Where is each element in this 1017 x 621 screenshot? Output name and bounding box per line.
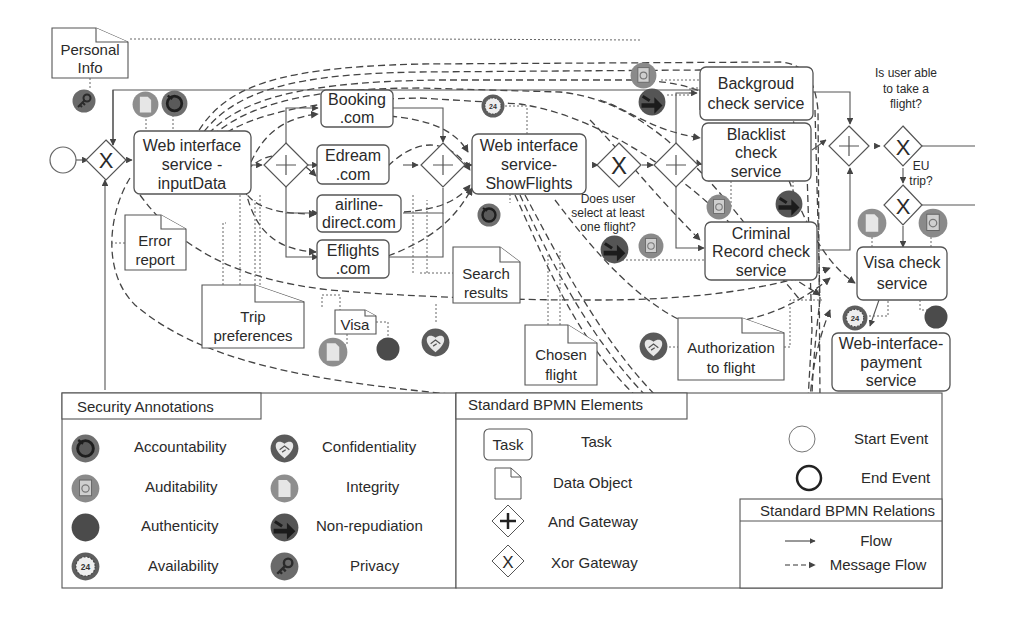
non-repudiation-icon (639, 89, 666, 116)
task-criminal-record-check[interactable]: Criminal Record check service (705, 222, 817, 280)
task-airline-direct[interactable]: airline- direct.com (317, 195, 401, 232)
task-web-interface-showflights[interactable]: Web interface service- ShowFlights (472, 134, 586, 194)
data-object-personal-info[interactable]: Personal Info (52, 28, 128, 78)
data-object-visa[interactable]: Visa (335, 310, 376, 334)
svg-text:.com: .com (340, 109, 375, 126)
svg-text:preferences: preferences (213, 327, 292, 344)
svg-text:Task: Task (493, 436, 524, 453)
svg-text:Message Flow: Message Flow (830, 556, 927, 573)
task-web-interface-inputdata[interactable]: Web interface service - inputData (134, 131, 251, 194)
svg-text:Accountability: Accountability (134, 438, 227, 455)
availability-icon (482, 95, 505, 118)
confidentiality-icon (640, 333, 668, 361)
svg-text:service: service (731, 163, 782, 180)
non-repudiation-icon (776, 191, 803, 218)
svg-text:Visa: Visa (341, 316, 371, 333)
svg-text:service: service (736, 262, 787, 279)
and-gateway-split-checks[interactable] (654, 143, 698, 187)
svg-text:X: X (896, 194, 911, 219)
accountability-icon (478, 204, 501, 227)
svg-text:X: X (611, 152, 627, 179)
svg-text:Web interface: Web interface (480, 137, 579, 154)
svg-text:.com: .com (336, 166, 371, 183)
svg-text:And Gateway: And Gateway (548, 513, 639, 530)
svg-text:Eflights: Eflights (327, 242, 379, 259)
svg-text:Web interface: Web interface (143, 137, 242, 154)
svg-text:ShowFlights: ShowFlights (485, 175, 572, 192)
svg-text:Availability: Availability (148, 557, 219, 574)
integrity-icon (133, 92, 159, 118)
data-object-authorization-to-flight[interactable]: Authorization to flight (678, 318, 784, 380)
confidentiality-icon (271, 435, 299, 463)
task-background-check[interactable]: Backgroud check service (700, 67, 813, 120)
svg-text:direct.com: direct.com (322, 214, 396, 231)
and-gateway-split-providers[interactable] (264, 143, 308, 187)
svg-text:Trip: Trip (240, 308, 265, 325)
svg-text:select at least: select at least (571, 206, 645, 220)
svg-text:Data Object: Data Object (553, 474, 633, 491)
bpmn-diagram: 24 (0, 0, 1017, 621)
start-event[interactable] (50, 147, 76, 173)
end-event-symbol (797, 466, 821, 490)
authenticity-icon (377, 338, 400, 361)
and-gateway-join-providers[interactable] (421, 143, 465, 187)
accountability-icon (162, 91, 188, 117)
svg-text:Is user able: Is user able (875, 66, 937, 80)
svg-text:Task: Task (581, 433, 612, 450)
and-gateway-join-checks[interactable] (829, 126, 869, 166)
svg-text:service -: service - (162, 156, 222, 173)
availability-icon (843, 306, 868, 331)
xor-gateway-eu-trip[interactable]: X (884, 185, 922, 225)
svg-text:Personal: Personal (60, 41, 119, 58)
svg-text:Error: Error (138, 232, 171, 249)
task-eflights[interactable]: Eflights .com (317, 240, 389, 278)
svg-text:Booking: Booking (328, 91, 386, 108)
authenticity-icon (925, 306, 948, 329)
svg-text:Privacy: Privacy (350, 557, 400, 574)
svg-text:Info: Info (77, 59, 102, 76)
auditability-icon (72, 475, 100, 503)
svg-text:service: service (877, 275, 928, 292)
svg-text:inputData: inputData (158, 175, 227, 192)
auditability-icon (707, 195, 732, 220)
svg-text:Record check: Record check (712, 243, 811, 260)
confidentiality-icon (422, 329, 450, 357)
svg-text:End Event: End Event (861, 469, 931, 486)
legend-elements-title: Standard BPMN Elements (468, 396, 643, 413)
data-object-chosen-flight[interactable]: Chosen flight (525, 325, 597, 385)
svg-text:Does user: Does user (581, 192, 636, 206)
svg-text:service-: service- (501, 156, 557, 173)
authenticity-icon (72, 514, 100, 542)
task-blacklist-check[interactable]: Blacklist check service (702, 123, 811, 181)
data-object-trip-preferences[interactable]: Trip preferences (202, 285, 304, 348)
xor-gateway-entry[interactable]: X (86, 140, 126, 180)
privacy-icon (73, 90, 96, 113)
svg-text:Auditability: Auditability (145, 478, 218, 495)
task-web-interface-payment[interactable]: Web-interface- payment service (832, 333, 950, 391)
legend-relations-title: Standard BPMN Relations (760, 502, 935, 519)
svg-text:payment: payment (860, 354, 922, 371)
xor-icon: X (502, 553, 513, 572)
xor-gateway-select-flight[interactable]: X (597, 143, 641, 187)
svg-text:.com: .com (336, 260, 371, 277)
svg-text:Confidentiality: Confidentiality (322, 438, 417, 455)
data-object-search-results[interactable]: Search results (453, 247, 520, 303)
svg-text:one flight?: one flight? (580, 220, 636, 234)
svg-text:airline-: airline- (335, 196, 383, 213)
svg-text:Xor Gateway: Xor Gateway (551, 554, 638, 571)
data-object-error-report[interactable]: Error report (125, 215, 186, 270)
svg-text:Blacklist: Blacklist (727, 126, 786, 143)
integrity-icon (319, 338, 348, 367)
svg-text:Authenticity: Authenticity (141, 517, 219, 534)
svg-text:service: service (866, 372, 917, 389)
question-able-to-fly: Is user able to take a flight? (875, 66, 937, 111)
auditability-icon (631, 63, 657, 89)
task-visa-check[interactable]: Visa check service (857, 247, 947, 300)
svg-text:Start Event: Start Event (854, 430, 929, 447)
non-repudiation-icon (601, 236, 629, 264)
svg-text:Chosen: Chosen (535, 346, 587, 363)
svg-text:Web-interface-: Web-interface- (839, 335, 944, 352)
svg-text:Search: Search (462, 265, 510, 282)
task-edream[interactable]: Edream .com (317, 145, 389, 184)
task-booking[interactable]: Booking .com (321, 90, 393, 127)
